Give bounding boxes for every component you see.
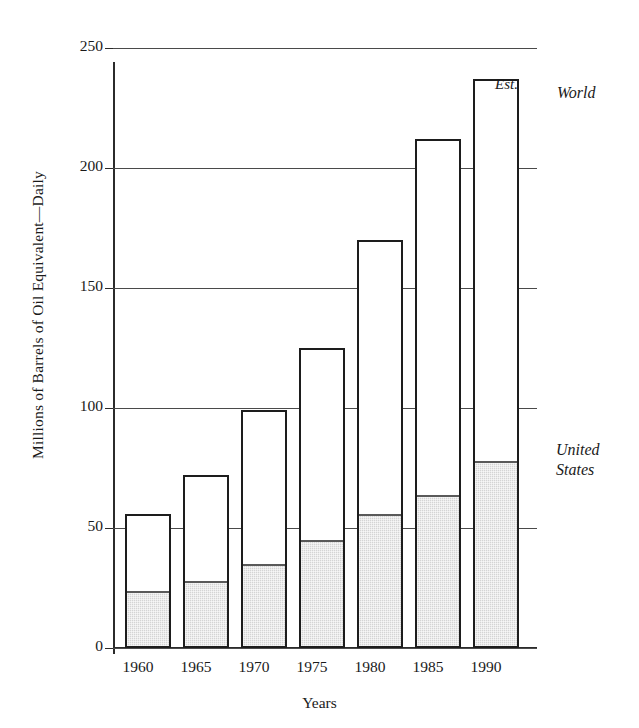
y-tick-200	[105, 168, 113, 169]
bar-1970[interactable]	[241, 410, 287, 648]
y-tick-label-200: 200	[57, 157, 103, 175]
bar-1965-us-segment	[185, 581, 227, 646]
y-tick-100	[105, 408, 113, 409]
bar-1960[interactable]	[125, 514, 171, 648]
y-tick-label-50: 50	[57, 517, 103, 535]
gridline-0	[113, 648, 537, 649]
y-tick-150	[105, 288, 113, 289]
oil-consumption-bar-chart: Millions of Barrels of Oil Equivalent—Da…	[0, 0, 639, 728]
world-series-label: World	[557, 84, 596, 102]
united-states-label-line1: United	[556, 441, 600, 458]
y-tick-250	[105, 48, 113, 49]
bar-1980[interactable]	[357, 240, 403, 648]
bar-1985-us-segment	[417, 495, 459, 646]
y-tick-label-150: 150	[57, 277, 103, 295]
bar-1975-us-segment	[301, 540, 343, 646]
bar-1980-us-segment	[359, 514, 401, 646]
bar-1970-us-segment	[243, 564, 285, 646]
y-tick-50	[105, 528, 113, 529]
bar-1990[interactable]	[473, 79, 519, 648]
y-tick-label-100: 100	[57, 397, 103, 415]
bar-1990-us-segment	[475, 461, 517, 646]
y-tick-0	[105, 648, 113, 649]
bar-1960-us-segment	[127, 591, 169, 646]
plot-area: 0 50 100 150 200 250	[113, 68, 529, 648]
bar-1965[interactable]	[183, 475, 229, 648]
y-axis-title: Millions of Barrels of Oil Equivalent—Da…	[29, 105, 47, 525]
bar-1975[interactable]	[299, 348, 345, 648]
y-tick-label-0: 0	[57, 637, 103, 655]
gridline-250	[113, 48, 537, 49]
x-tick-label-1990: 1990	[446, 658, 526, 676]
estimate-annotation: Est.	[495, 76, 518, 93]
y-tick-label-250: 250	[57, 37, 103, 55]
bar-1985[interactable]	[415, 139, 461, 648]
x-axis-title: Years	[0, 694, 639, 712]
united-states-series-label: United States	[556, 440, 628, 480]
united-states-label-line2: States	[556, 461, 594, 478]
